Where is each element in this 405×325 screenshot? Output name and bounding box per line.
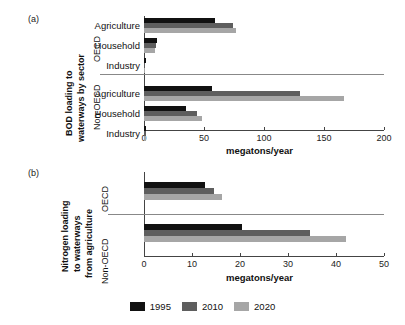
panel-b-group-label-oecd: OECD <box>100 186 110 212</box>
legend-swatch-icon <box>182 302 197 311</box>
x-axis-tick-label: 30 <box>268 259 308 269</box>
group-divider <box>100 74 384 75</box>
x-axis-line <box>144 130 384 131</box>
category-label: Agriculture <box>40 88 140 99</box>
legend-swatch-icon <box>130 302 145 311</box>
category-label: Industry <box>40 128 140 139</box>
bar <box>144 68 145 73</box>
bar <box>144 28 236 33</box>
legend-item: 1995 <box>130 301 171 312</box>
panel-bod-loading: (a) BOD loading to waterways by sector O… <box>0 0 405 160</box>
x-axis-tick <box>240 253 241 256</box>
x-axis-tick <box>384 127 385 130</box>
x-axis-tick-label: 200 <box>364 133 404 143</box>
legend-label: 2010 <box>202 301 223 312</box>
category-label: Industry <box>40 60 140 71</box>
legend-item: 2010 <box>182 301 223 312</box>
bar <box>144 116 202 121</box>
x-axis-tick <box>144 253 145 256</box>
panel-b-group-label-non-oecd: Non-OECD <box>100 238 110 284</box>
x-axis-tick-label: 100 <box>244 133 284 143</box>
bar <box>144 48 155 53</box>
x-axis-tick <box>384 253 385 256</box>
category-label: Household <box>40 40 140 51</box>
panel-b-ylabel-line2: to waterways <box>72 215 82 272</box>
x-axis-tick-label: 150 <box>304 133 344 143</box>
x-axis-tick-label: 20 <box>220 259 260 269</box>
x-axis-tick-label: 50 <box>364 259 404 269</box>
x-axis-tick-label: 0 <box>124 259 164 269</box>
category-label: Household <box>40 108 140 119</box>
x-axis-tick <box>324 127 325 130</box>
panel-b-letter: (b) <box>28 168 39 178</box>
legend-label: 1995 <box>150 301 171 312</box>
legend-item: 2020 <box>234 301 275 312</box>
bar <box>144 194 222 200</box>
x-axis-tick-label: 10 <box>172 259 212 269</box>
legend: 199520102020 <box>0 296 405 316</box>
panel-a-ylabel-line1: BOD loading to <box>64 71 74 137</box>
bar <box>144 136 146 141</box>
legend-label: 2020 <box>254 301 275 312</box>
x-axis-title: megatons/year <box>226 272 293 283</box>
x-axis-tick-label: 40 <box>316 259 356 269</box>
category-label: Agriculture <box>40 20 140 31</box>
bar <box>144 96 344 101</box>
panel-b-ylabel-line3: from agriculture <box>84 209 94 278</box>
x-axis-line <box>144 256 384 257</box>
bar <box>144 236 346 242</box>
group-divider <box>108 214 384 215</box>
x-axis-tick <box>204 127 205 130</box>
x-axis-tick <box>336 253 337 256</box>
panel-b-ylabel-line1: Nitrogen loading <box>60 201 70 273</box>
x-axis-tick <box>264 127 265 130</box>
legend-swatch-icon <box>234 302 249 311</box>
panel-nitrogen-loading: (b) Nitrogen loading to waterways from a… <box>0 160 405 290</box>
x-axis-tick <box>288 253 289 256</box>
x-axis-title: megatons/year <box>226 145 293 156</box>
x-axis-tick-label: 50 <box>184 133 224 143</box>
panel-a-letter: (a) <box>28 14 39 24</box>
x-axis-tick <box>192 253 193 256</box>
